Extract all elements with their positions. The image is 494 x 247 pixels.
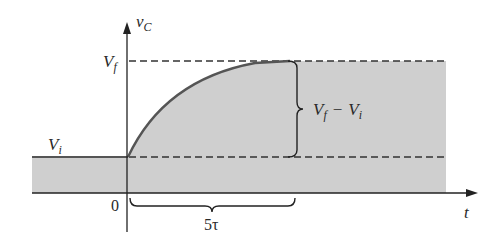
- voltage-axis-arrow-icon: [123, 22, 131, 34]
- origin-label: 0: [111, 197, 119, 214]
- difference-label: Vf−Vi: [313, 100, 362, 122]
- duration-label: 5τ: [204, 216, 219, 233]
- shaded-region-curve: [128, 61, 446, 157]
- time-axis-label: t: [464, 203, 470, 222]
- initial-level-label: Vi: [48, 135, 62, 157]
- transient-diagram: vC Vf Vi Vf−Vi 0 5τ t: [0, 0, 494, 247]
- time-axis-arrow-icon: [466, 189, 478, 197]
- shaded-region-base: [32, 157, 446, 193]
- duration-brace: [130, 198, 295, 212]
- voltage-axis-label: vC: [136, 12, 153, 34]
- final-level-label: Vf: [103, 52, 118, 74]
